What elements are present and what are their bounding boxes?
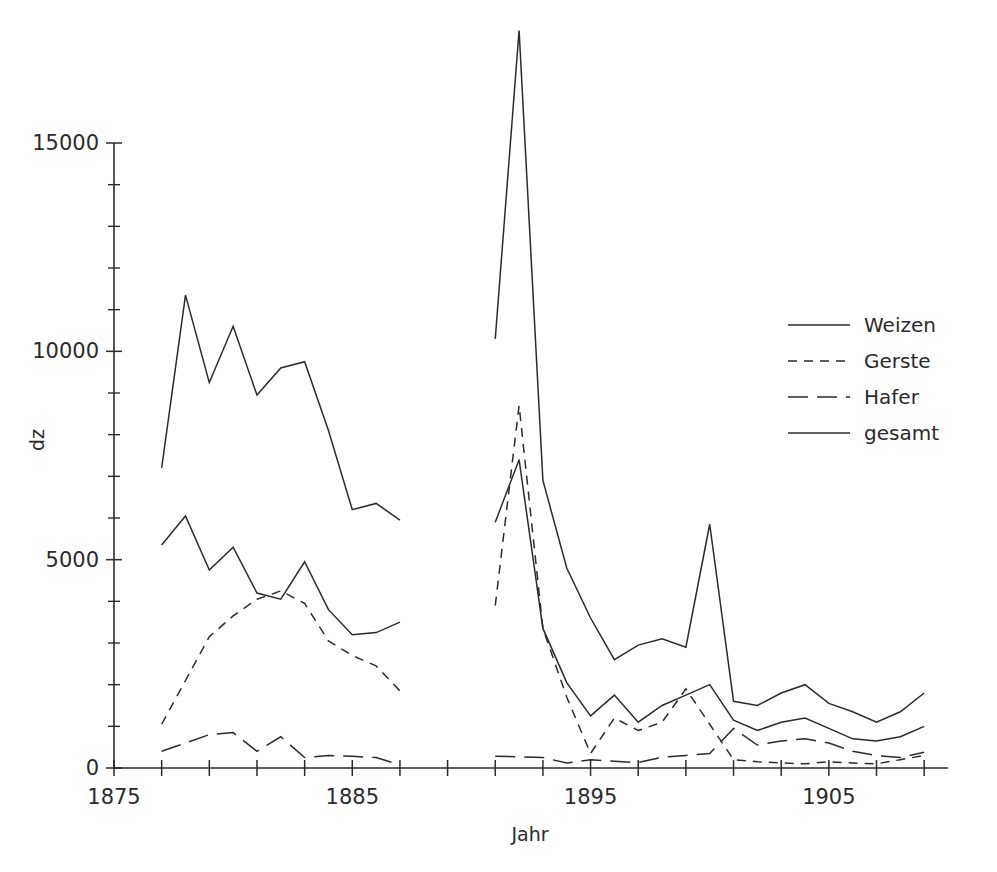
x-axis-title: Jahr: [510, 823, 548, 845]
series-line-gesamt: [495, 31, 924, 723]
x-axis-tick-labels: 1875188518951905: [87, 785, 855, 809]
chart-figure: 050001000015000 1875188518951905 dz Jahr…: [0, 0, 997, 872]
y-tick-label: 10000: [32, 339, 99, 363]
legend-label-weizen: Weizen: [864, 313, 936, 337]
y-axis-tick-labels: 050001000015000: [32, 131, 99, 780]
y-tick-label: 15000: [32, 131, 99, 155]
series-line-gesamt: [162, 295, 400, 520]
legend-label-hafer: Hafer: [864, 385, 920, 409]
x-tick-label: 1875: [87, 785, 140, 809]
series-line-gerste: [162, 591, 400, 724]
legend-label-gerste: Gerste: [864, 349, 931, 373]
y-axis-title: dz: [26, 429, 48, 451]
y-tick-label: 0: [86, 756, 99, 780]
series-line-weizen: [495, 460, 924, 741]
chart-legend: WeizenGersteHafergesamt: [788, 313, 939, 445]
series-line-weizen: [162, 516, 400, 635]
series-lines: [162, 31, 925, 765]
series-line-gerste: [495, 406, 924, 764]
x-tick-label: 1895: [564, 785, 617, 809]
legend-label-gesamt: gesamt: [864, 421, 939, 445]
series-line-hafer: [162, 733, 400, 765]
x-tick-label: 1885: [326, 785, 379, 809]
y-tick-label: 5000: [46, 548, 99, 572]
series-line-hafer: [495, 728, 924, 763]
x-tick-label: 1905: [802, 785, 855, 809]
chart-plot-area: 050001000015000 1875188518951905 dz Jahr…: [0, 0, 997, 872]
